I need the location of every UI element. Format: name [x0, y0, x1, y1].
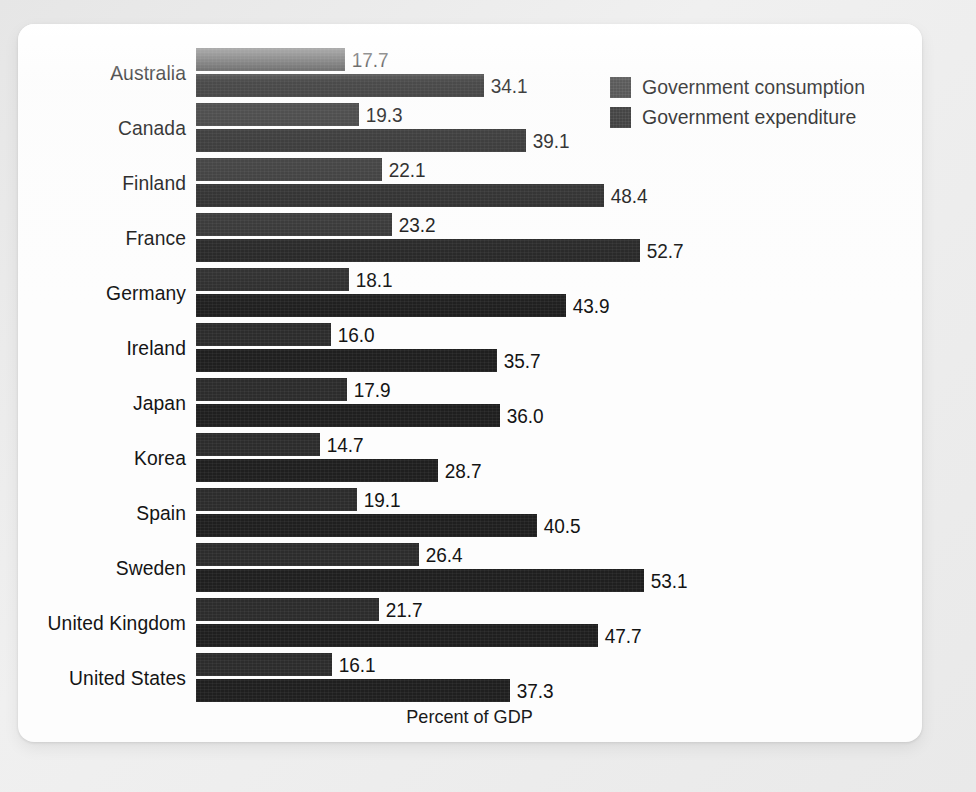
bar-value-label: 17.7	[345, 48, 389, 71]
bar-value-label: 19.3	[359, 103, 403, 126]
bar-value-label: 19.1	[357, 488, 401, 511]
bar-line: 48.4	[196, 184, 922, 207]
bar-consumption[interactable]	[196, 543, 419, 566]
bar-line: 23.2	[196, 213, 922, 236]
bar-expenditure[interactable]	[196, 74, 484, 97]
bar-value-label: 23.2	[392, 213, 436, 236]
category-label: Finland	[7, 168, 186, 198]
bar-expenditure[interactable]	[196, 459, 438, 482]
chart-row: Spain19.140.5	[18, 486, 922, 541]
bar-value-label: 17.9	[347, 378, 391, 401]
bar-group: 18.143.9	[196, 268, 922, 319]
bar-line: 22.1	[196, 158, 922, 181]
bar-value-label: 53.1	[644, 569, 688, 592]
bar-consumption[interactable]	[196, 378, 347, 401]
bar-value-label: 18.1	[349, 268, 393, 291]
bar-consumption[interactable]	[196, 268, 349, 291]
bar-expenditure[interactable]	[196, 569, 644, 592]
bar-line: 17.7	[196, 48, 922, 71]
bar-line: 14.7	[196, 433, 922, 456]
bar-consumption[interactable]	[196, 103, 359, 126]
chart-card: Australia17.734.1Canada19.339.1Finland22…	[18, 24, 922, 742]
bar-expenditure[interactable]	[196, 184, 604, 207]
bar-line: 36.0	[196, 404, 922, 427]
category-label: Japan	[7, 388, 186, 418]
bar-consumption[interactable]	[196, 48, 345, 71]
bar-expenditure[interactable]	[196, 404, 500, 427]
bar-consumption[interactable]	[196, 598, 379, 621]
legend-swatch-icon	[610, 77, 631, 98]
bar-value-label: 39.1	[526, 129, 570, 152]
bar-line: 26.4	[196, 543, 922, 566]
bar-chart: Australia17.734.1Canada19.339.1Finland22…	[18, 24, 922, 742]
chart-row: Sweden26.453.1	[18, 541, 922, 596]
bar-line: 47.7	[196, 624, 922, 647]
bar-line: 19.1	[196, 488, 922, 511]
category-label: Canada	[7, 113, 186, 143]
legend-item[interactable]: Government consumption	[610, 74, 877, 100]
bar-value-label: 34.1	[484, 74, 528, 97]
bar-consumption[interactable]	[196, 433, 320, 456]
bar-line: 52.7	[196, 239, 922, 262]
bar-consumption[interactable]	[196, 158, 382, 181]
bar-line: 28.7	[196, 459, 922, 482]
bar-value-label: 40.5	[537, 514, 581, 537]
bar-value-label: 37.3	[510, 679, 554, 702]
category-label: Sweden	[7, 553, 186, 583]
bar-line: 16.1	[196, 653, 922, 676]
bar-line: 39.1	[196, 129, 922, 152]
chart-row: United Kingdom21.747.7	[18, 596, 922, 651]
legend-item[interactable]: Government expenditure	[610, 104, 877, 130]
bar-expenditure[interactable]	[196, 624, 598, 647]
category-label: Germany	[7, 278, 186, 308]
page-background: Australia17.734.1Canada19.339.1Finland22…	[0, 0, 976, 792]
bar-consumption[interactable]	[196, 213, 392, 236]
bar-group: 16.137.3	[196, 653, 922, 704]
bar-consumption[interactable]	[196, 653, 332, 676]
bar-line: 40.5	[196, 514, 922, 537]
legend-label: Government consumption	[642, 75, 865, 99]
plot-area: Australia17.734.1Canada19.339.1Finland22…	[18, 46, 922, 706]
x-axis-title-text: Percent of GDP	[407, 706, 533, 728]
bar-value-label: 28.7	[438, 459, 482, 482]
bar-group: 14.728.7	[196, 433, 922, 484]
bar-value-label: 47.7	[598, 624, 642, 647]
bar-consumption[interactable]	[196, 323, 331, 346]
chart-row: Germany18.143.9	[18, 266, 922, 321]
bar-group: 26.453.1	[196, 543, 922, 594]
bar-value-label: 21.7	[379, 598, 423, 621]
bar-value-label: 35.7	[497, 349, 541, 372]
category-label: United States	[7, 663, 186, 693]
legend-swatch-icon	[610, 107, 631, 128]
bar-expenditure[interactable]	[196, 349, 497, 372]
chart-legend: Government consumptionGovernment expendi…	[610, 74, 877, 130]
bar-line: 35.7	[196, 349, 922, 372]
bar-line: 37.3	[196, 679, 922, 702]
bar-expenditure[interactable]	[196, 239, 640, 262]
bar-line: 18.1	[196, 268, 922, 291]
bar-value-label: 14.7	[320, 433, 364, 456]
bar-expenditure[interactable]	[196, 129, 526, 152]
chart-row: France23.252.7	[18, 211, 922, 266]
chart-row: United States16.137.3	[18, 651, 922, 706]
chart-row: Ireland16.035.7	[18, 321, 922, 376]
bar-line: 17.9	[196, 378, 922, 401]
chart-row: Japan17.936.0	[18, 376, 922, 431]
bar-value-label: 36.0	[500, 404, 544, 427]
bar-value-label: 48.4	[604, 184, 648, 207]
bar-line: 21.7	[196, 598, 922, 621]
bar-value-label: 52.7	[640, 239, 684, 262]
category-label: France	[7, 223, 186, 253]
x-axis-title: Percent of GDP	[18, 706, 922, 728]
category-label: United Kingdom	[7, 608, 186, 638]
bar-expenditure[interactable]	[196, 679, 510, 702]
bar-expenditure[interactable]	[196, 514, 537, 537]
bar-expenditure[interactable]	[196, 294, 566, 317]
bar-group: 23.252.7	[196, 213, 922, 264]
category-label: Korea	[7, 443, 186, 473]
bar-line: 53.1	[196, 569, 922, 592]
bar-value-label: 16.1	[332, 653, 376, 676]
bar-group: 16.035.7	[196, 323, 922, 374]
bar-value-label: 16.0	[331, 323, 375, 346]
bar-consumption[interactable]	[196, 488, 357, 511]
